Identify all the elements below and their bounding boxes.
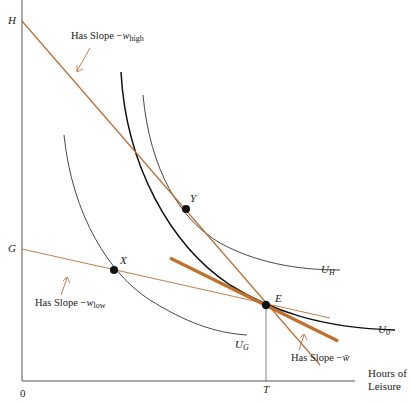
annotation-slope-avg: Has Slope −w̄ (291, 353, 349, 364)
point-x (110, 266, 118, 274)
point-e-label: E (275, 293, 282, 304)
u-0-sub: 0 (386, 328, 390, 337)
budget-line-high (22, 21, 320, 365)
ann-high-sub: high (129, 34, 143, 43)
ann-avg-var: w̄ (342, 352, 349, 363)
point-e (262, 301, 270, 309)
point-y (182, 205, 190, 213)
u-g-base: U (235, 338, 243, 350)
arrow-high-shaft (77, 48, 90, 71)
g-intercept-label: G (8, 243, 16, 254)
u-h-base: U (321, 263, 329, 275)
curve-u-h (143, 95, 340, 270)
curve-u-g-label: UG (235, 339, 249, 352)
point-x-label: X (120, 255, 127, 266)
ann-low-sub: low (93, 301, 105, 310)
ann-low-prefix: Has Slope − (35, 297, 86, 308)
point-y-label: Y (190, 193, 196, 204)
curve-u-0-label: U0 (378, 324, 390, 337)
t-tick-label: T (263, 384, 269, 395)
annotation-slope-high: Has Slope −whigh (71, 31, 144, 43)
origin-label: 0 (20, 388, 26, 399)
x-axis-label-2: Leisure (368, 381, 401, 392)
ann-avg-prefix: Has Slope − (291, 352, 342, 363)
curve-u-0 (121, 72, 395, 330)
annotation-slope-low: Has Slope −wlow (35, 298, 105, 310)
curve-u-h-label: UH (321, 264, 335, 277)
h-intercept-label: H (8, 15, 16, 26)
ann-high-prefix: Has Slope − (71, 30, 122, 41)
budget-line-avg (170, 258, 338, 341)
x-axis-label-1: Hours of (368, 368, 407, 379)
u-0-base: U (378, 323, 386, 335)
labor-leisure-diagram (0, 0, 411, 402)
u-h-sub: H (329, 268, 335, 277)
u-g-sub: G (243, 343, 249, 352)
